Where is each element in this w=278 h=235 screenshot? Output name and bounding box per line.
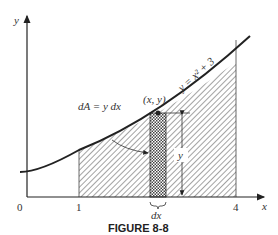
area-under-curve-figure: y y x 0 1 4 dx (x, y) dA = y dx y = x² +… bbox=[0, 0, 278, 235]
point-label: (x, y) bbox=[143, 93, 166, 106]
dx-brace bbox=[150, 202, 166, 209]
tick-1: 1 bbox=[76, 201, 82, 213]
area-element-label: dA = y dx bbox=[78, 100, 121, 112]
height-label: y bbox=[177, 149, 183, 161]
tick-0: 0 bbox=[17, 201, 23, 213]
tick-4: 4 bbox=[233, 201, 239, 213]
area-element-strip bbox=[150, 113, 166, 197]
dx-label: dx bbox=[151, 209, 162, 221]
x-axis-label: x bbox=[261, 200, 267, 212]
figure-caption: FIGURE 8-8 bbox=[108, 222, 169, 234]
y-axis-label: y bbox=[13, 14, 19, 26]
point-marker bbox=[156, 111, 161, 116]
